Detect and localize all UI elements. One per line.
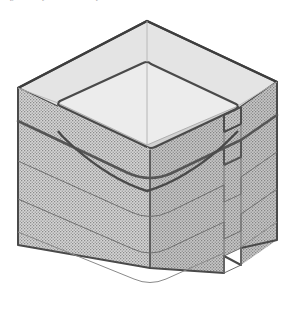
isometric-box-illustration bbox=[0, 0, 293, 311]
figure-root: Figure 4. Layered mould body bbox=[0, 0, 293, 311]
